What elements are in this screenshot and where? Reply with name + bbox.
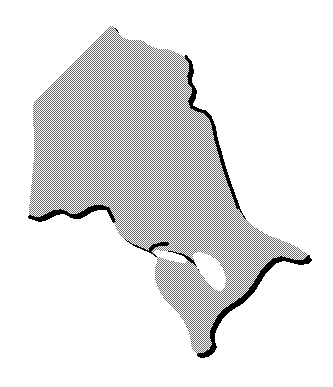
map-figure: Ontario [0, 0, 333, 387]
ontario-map-graphic [0, 0, 333, 387]
